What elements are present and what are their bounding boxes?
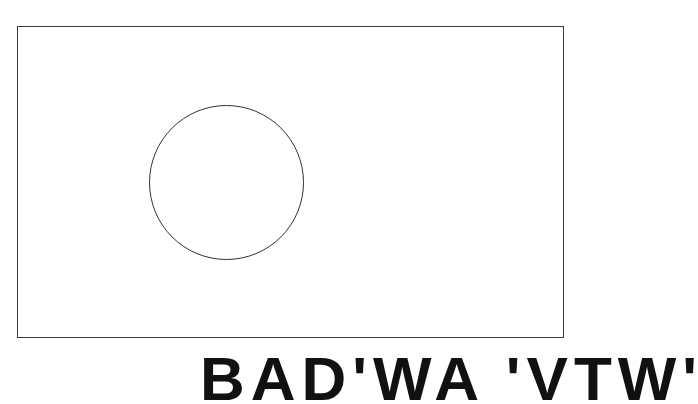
caption-text: BAD'WA 'VTW'	[200, 348, 698, 404]
circle-emblem	[149, 105, 304, 260]
